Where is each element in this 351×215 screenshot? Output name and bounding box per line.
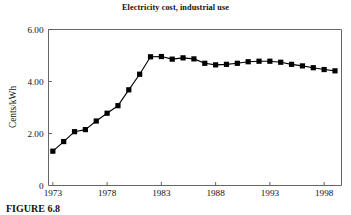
data-point-marker — [224, 62, 229, 67]
data-point-marker — [332, 68, 337, 73]
y-tick-label: 4.00 — [27, 77, 43, 87]
data-point-marker — [50, 149, 55, 154]
data-point-marker — [170, 57, 175, 62]
data-point-marker — [278, 60, 283, 65]
x-tick-label: 1983 — [152, 188, 171, 198]
data-line — [53, 57, 335, 152]
data-point-marker — [159, 54, 164, 59]
data-point-marker — [256, 59, 261, 64]
data-point-marker — [289, 62, 294, 67]
y-tick-label: 0 — [39, 181, 44, 191]
plot-frame — [49, 30, 342, 186]
figure-container: Electricity cost, industrial use 1973197… — [0, 0, 351, 215]
data-point-marker — [311, 65, 316, 70]
data-point-marker — [246, 59, 251, 64]
data-point-marker — [94, 118, 99, 123]
x-tick-label: 1973 — [44, 188, 63, 198]
data-point-marker — [235, 61, 240, 66]
x-tick-label: 1978 — [98, 188, 117, 198]
data-point-marker — [148, 54, 153, 59]
data-point-marker — [105, 111, 110, 116]
data-point-marker — [180, 55, 185, 60]
data-point-marker — [191, 56, 196, 61]
chart-plot: 197319781983198819931998 02.004.006.00 C… — [0, 0, 351, 215]
y-axis-title: Cents/kWh — [8, 86, 18, 128]
x-tick-label: 1998 — [315, 188, 334, 198]
data-point-marker — [202, 61, 207, 66]
data-point-marker — [213, 62, 218, 67]
data-point-marker — [126, 87, 131, 92]
data-point-marker — [267, 59, 272, 64]
x-tick-label: 1988 — [206, 188, 225, 198]
x-tick-label: 1993 — [261, 188, 280, 198]
data-point-marker — [300, 63, 305, 68]
data-point-marker — [115, 103, 120, 108]
x-axis-ticks: 197319781983198819931998 — [44, 182, 334, 198]
data-point-marker — [61, 139, 66, 144]
y-tick-label: 6.00 — [27, 25, 43, 35]
data-point-marker — [72, 129, 77, 134]
data-point-marker — [83, 127, 88, 132]
figure-caption: FIGURE 6.8 — [6, 203, 60, 215]
y-tick-label: 2.00 — [27, 129, 43, 139]
data-markers — [50, 54, 337, 154]
data-point-marker — [322, 67, 327, 72]
data-point-marker — [137, 72, 142, 77]
